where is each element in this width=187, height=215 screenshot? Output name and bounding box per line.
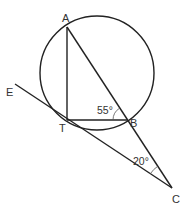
label-B: B <box>130 117 137 129</box>
angle-arc-B <box>113 108 119 120</box>
segment-AC <box>67 27 172 188</box>
geometry-diagram: A T B C E 55° 20° <box>0 0 187 215</box>
angle-label-55: 55° <box>97 104 113 116</box>
label-A: A <box>62 12 70 24</box>
angle-label-20: 20° <box>133 155 149 167</box>
angle-arc-C <box>150 166 157 174</box>
label-E: E <box>6 86 13 98</box>
label-T: T <box>59 122 66 134</box>
tangent-line-EC <box>15 84 172 188</box>
label-C: C <box>172 193 180 205</box>
